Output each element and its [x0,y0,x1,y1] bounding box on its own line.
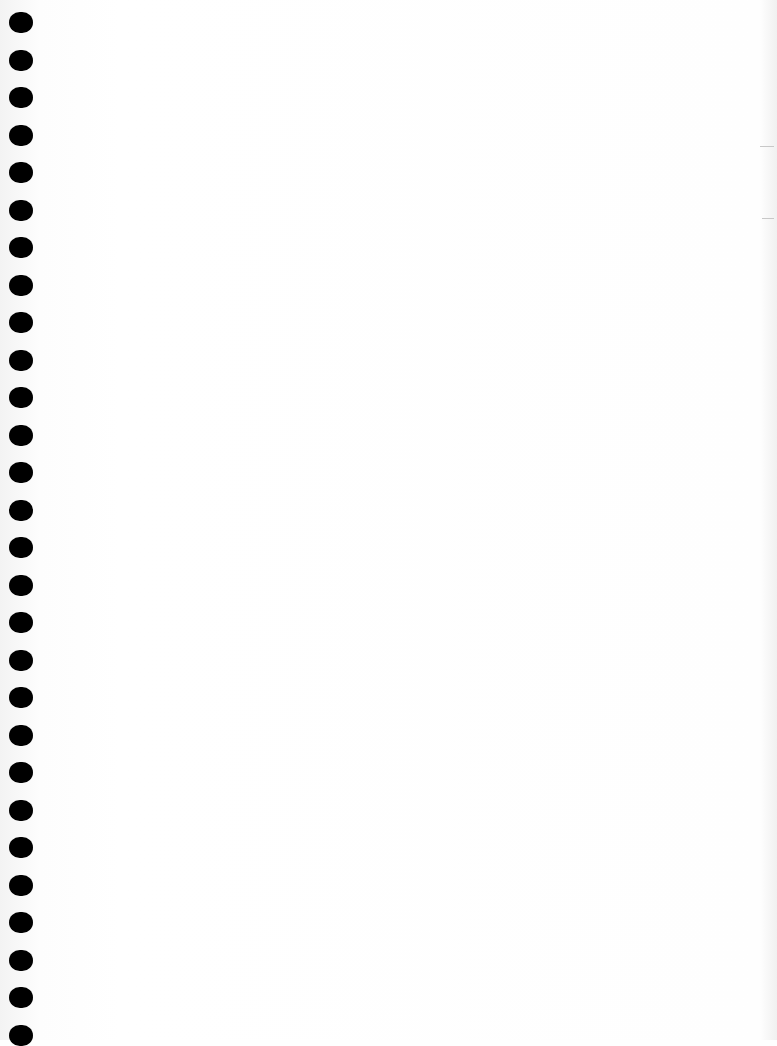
binder-hole [9,912,33,933]
binder-hole [9,800,33,821]
binder-hole [9,462,33,483]
binder-hole [9,762,33,783]
binder-hole [9,687,33,708]
binder-hole [9,87,33,108]
binder-hole [9,537,33,558]
binder-hole [9,1025,33,1046]
binder-holes [9,0,39,1040]
binder-hole [9,500,33,521]
binder-hole [9,425,33,446]
binder-hole [9,312,33,333]
binder-hole [9,987,33,1008]
binder-hole [9,612,33,633]
binder-hole [9,275,33,296]
binder-hole [9,837,33,858]
binder-hole [9,162,33,183]
binder-hole [9,875,33,896]
binder-hole [9,125,33,146]
binder-hole [9,650,33,671]
binder-hole [9,350,33,371]
binder-hole [9,387,33,408]
edge-mark [762,218,774,219]
binder-hole [9,12,33,33]
binder-hole [9,200,33,221]
binder-hole [9,575,33,596]
edge-mark [760,146,774,147]
binder-hole [9,237,33,258]
binder-hole [9,950,33,971]
binder-hole [9,50,33,71]
binder-hole [9,725,33,746]
